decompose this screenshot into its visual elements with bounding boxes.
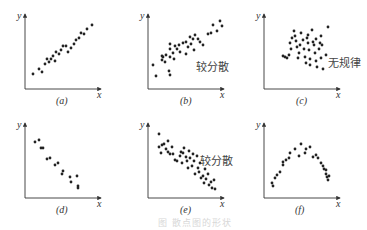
data-point: [174, 45, 177, 48]
data-point: [317, 157, 320, 160]
data-point: [193, 49, 196, 52]
panel-label-d: (d): [56, 204, 68, 215]
data-point: [210, 181, 213, 184]
data-point: [62, 170, 65, 173]
data-point: [272, 185, 275, 188]
data-point: [288, 54, 291, 57]
data-point: [274, 177, 277, 180]
data-point: [185, 156, 188, 159]
data-point: [38, 68, 41, 71]
scatter-panel-b: yx: [139, 10, 225, 100]
data-point: [49, 157, 52, 160]
data-point: [192, 38, 195, 41]
data-point: [320, 57, 323, 60]
x-axis-label: x: [219, 198, 225, 209]
data-point: [282, 164, 285, 167]
data-point: [176, 48, 179, 51]
data-point: [294, 148, 297, 151]
figure-caption: 图 散点图的形状: [120, 216, 270, 229]
data-point: [315, 38, 318, 41]
data-point: [189, 157, 192, 160]
data-point: [192, 153, 195, 156]
data-point: [161, 55, 164, 58]
data-point: [54, 164, 57, 167]
data-point: [318, 48, 321, 51]
data-point: [325, 169, 328, 172]
data-point: [91, 24, 94, 27]
data-point: [320, 35, 323, 38]
data-point: [57, 162, 60, 165]
data-point: [61, 173, 64, 176]
data-point: [327, 26, 330, 29]
y-axis-label: y: [16, 10, 22, 21]
data-point: [194, 173, 197, 176]
data-point: [155, 75, 158, 78]
data-point: [165, 148, 168, 151]
data-point: [193, 160, 196, 163]
data-point: [41, 71, 44, 74]
data-point: [55, 51, 58, 54]
data-point: [328, 175, 331, 178]
data-point: [302, 39, 305, 42]
data-point: [179, 51, 182, 54]
data-point: [311, 29, 314, 32]
y-axis-label: y: [139, 119, 145, 130]
data-point: [181, 162, 184, 165]
data-point: [286, 57, 289, 60]
data-point: [319, 42, 322, 45]
data-point: [171, 146, 174, 149]
data-point: [70, 181, 73, 184]
data-point: [291, 37, 294, 40]
data-point: [327, 179, 330, 182]
data-point: [198, 171, 201, 174]
data-point: [172, 153, 175, 156]
data-point: [325, 173, 328, 176]
y-axis-label: y: [255, 119, 261, 130]
data-point: [167, 140, 170, 143]
data-point: [179, 155, 182, 158]
annotation-b: 较分散: [196, 58, 229, 74]
panel-label-f: (f): [295, 204, 304, 215]
data-point: [161, 59, 164, 62]
annotation-c: 无规律: [328, 54, 361, 70]
x-axis-label: x: [335, 198, 341, 209]
data-point: [279, 171, 282, 174]
data-point: [50, 58, 53, 61]
data-point: [312, 41, 315, 44]
data-point: [202, 175, 205, 178]
data-point: [62, 45, 65, 48]
data-point: [83, 33, 86, 36]
data-point: [306, 37, 309, 40]
data-point: [309, 64, 312, 67]
data-point: [312, 156, 315, 159]
data-point: [322, 68, 325, 71]
data-point: [73, 43, 76, 46]
data-point: [189, 36, 192, 39]
x-axis-label: x: [96, 198, 102, 209]
data-point: [210, 32, 213, 35]
data-point: [285, 159, 288, 162]
panel-label-b: (b): [180, 95, 192, 106]
data-point: [183, 147, 186, 150]
data-point: [58, 53, 61, 56]
data-point: [309, 146, 312, 149]
data-point: [48, 61, 51, 64]
data-point: [169, 74, 172, 77]
data-point: [320, 162, 323, 165]
data-point: [300, 32, 303, 35]
scatter-plots-canvas: yxyxyxyxyxyx: [0, 0, 367, 230]
data-point: [185, 41, 188, 44]
data-point: [75, 39, 78, 42]
data-point: [190, 43, 193, 46]
data-point: [67, 51, 70, 54]
data-point: [297, 57, 300, 60]
data-point: [69, 176, 72, 179]
data-point: [214, 188, 217, 191]
data-point: [167, 151, 170, 154]
data-point: [299, 44, 302, 47]
data-point: [207, 173, 210, 176]
data-point: [290, 48, 293, 51]
data-point: [152, 64, 155, 67]
data-point: [298, 52, 301, 55]
data-point: [208, 184, 211, 187]
